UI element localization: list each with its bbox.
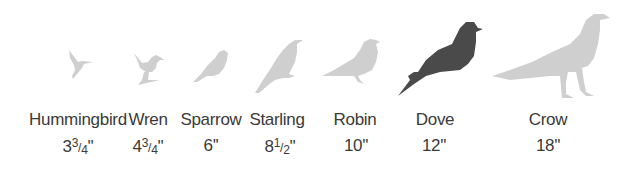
wren-silhouette-icon [132, 50, 166, 88]
bird-size-wren: 43/4'' [133, 136, 164, 157]
dove-silhouette-icon [398, 16, 482, 98]
hummingbird-silhouette-icon [66, 48, 96, 82]
bird-size-hummingbird: 33/4'' [63, 136, 94, 157]
bird-name-robin: Robin [334, 110, 377, 130]
bird-size-starling: 81/2'' [265, 136, 296, 157]
crow-silhouette-icon [490, 10, 614, 102]
robin-silhouette-icon [320, 36, 382, 86]
bird-name-hummingbird: Hummingbird [29, 110, 127, 130]
bird-name-crow: Crow [529, 110, 567, 130]
bird-name-starling: Starling [249, 110, 304, 130]
bird-size-crow: 18'' [536, 136, 560, 156]
bird-size-dove: 12'' [422, 136, 446, 156]
starling-silhouette-icon [253, 38, 305, 94]
sparrow-silhouette-icon [191, 48, 231, 84]
bird-name-wren: Wren [128, 110, 167, 130]
bird-name-dove: Dove [416, 110, 455, 130]
bird-size-sparrow: 6'' [203, 136, 218, 156]
bird-size-robin: 10'' [344, 136, 368, 156]
bird-name-sparrow: Sparrow [180, 110, 241, 130]
